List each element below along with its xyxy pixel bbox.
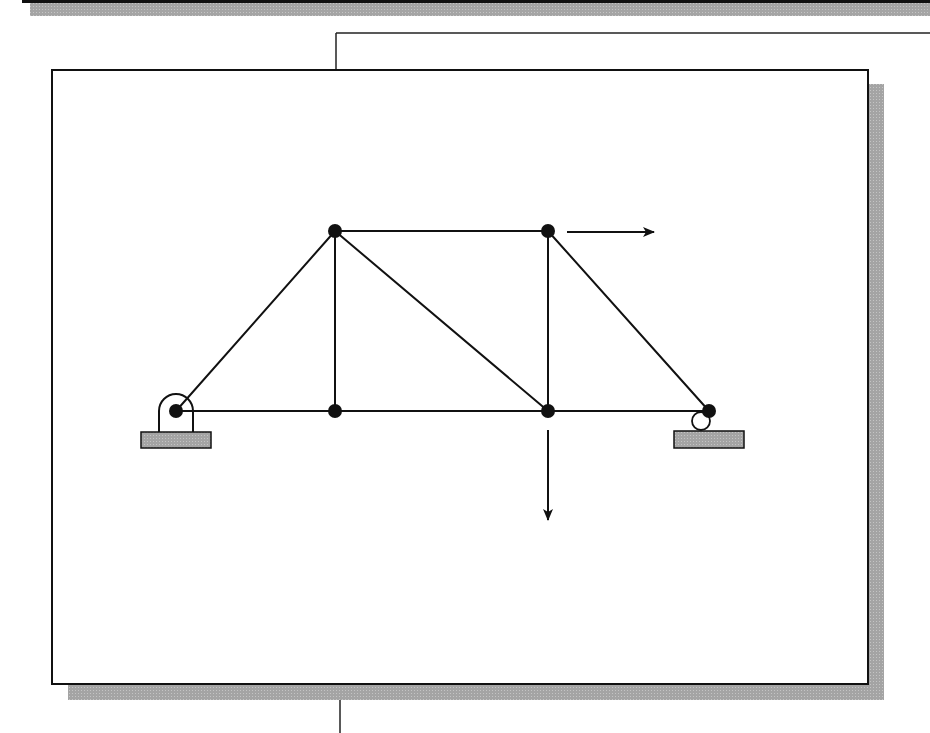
joint-C (328, 404, 342, 418)
diagram-frame (52, 70, 868, 684)
joint-A (169, 404, 183, 418)
top-banner (22, 0, 930, 16)
joint-E (541, 404, 555, 418)
joint-D (541, 224, 555, 238)
joint-B (328, 224, 342, 238)
truss-diagram (0, 0, 930, 733)
joint-F (702, 404, 716, 418)
